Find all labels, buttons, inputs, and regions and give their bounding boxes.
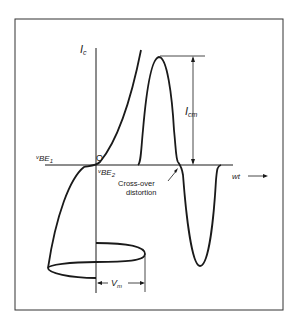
- icm-label: Icm: [185, 105, 198, 118]
- icm-arrow-down-icon: [191, 159, 195, 165]
- vbe1-label: vBE1: [36, 154, 53, 164]
- transfer-curve: [48, 50, 141, 268]
- vm-arrow-left-icon: [97, 281, 102, 285]
- origin-label: O: [96, 153, 103, 163]
- crossover-distortion-diagram: Ic O vBE1 vBE2 Icm Cross-over distortion…: [0, 0, 299, 326]
- crossover-label-line2: distortion: [126, 188, 156, 197]
- vm-arrow-right-icon: [140, 281, 145, 285]
- crossover-label-line1: Cross-over: [118, 179, 155, 188]
- ic-label: Ic: [80, 43, 87, 56]
- icm-arrow-up-icon: [191, 56, 195, 62]
- vm-label: Vm: [111, 278, 122, 289]
- wt-label: wt: [232, 172, 241, 181]
- crossover-arrow-icon: [174, 168, 178, 173]
- vbe2-label: vBE2: [98, 168, 116, 178]
- wt-arrow-icon: [263, 174, 268, 178]
- output-negative-half: [178, 162, 221, 266]
- output-positive-half: [138, 57, 178, 165]
